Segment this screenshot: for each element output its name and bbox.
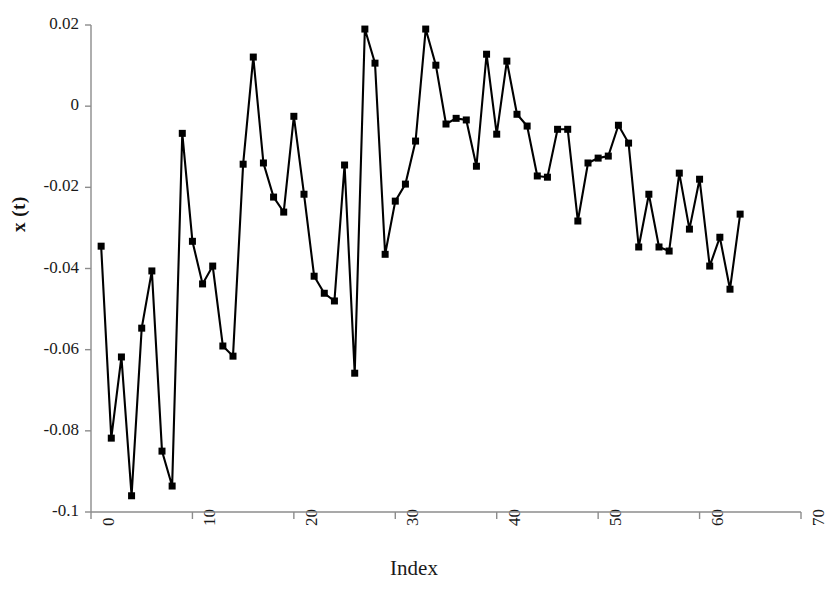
data-point-marker — [676, 170, 683, 177]
data-point-marker — [554, 126, 561, 133]
data-point-marker — [230, 353, 237, 360]
data-point-marker — [524, 123, 531, 130]
data-point-marker — [331, 297, 338, 304]
data-point-marker — [544, 174, 551, 181]
data-point-marker — [716, 234, 723, 241]
data-point-marker — [564, 126, 571, 133]
data-point-marker — [372, 60, 379, 67]
data-point-marker — [321, 290, 328, 297]
data-point-marker — [240, 161, 247, 168]
data-point-marker — [656, 243, 663, 250]
data-point-marker — [169, 483, 176, 490]
data-point-marker — [645, 191, 652, 198]
data-point-marker — [473, 163, 480, 170]
data-series — [98, 26, 744, 500]
data-point-marker — [483, 51, 490, 58]
data-point-marker — [108, 435, 115, 442]
data-point-marker — [290, 113, 297, 120]
data-point-marker — [351, 370, 358, 377]
axes — [85, 25, 801, 519]
data-point-marker — [574, 218, 581, 225]
data-point-marker — [432, 62, 439, 69]
data-point-marker — [179, 130, 186, 137]
data-point-marker — [280, 209, 287, 216]
data-point-marker — [666, 248, 673, 255]
data-point-marker — [595, 155, 602, 162]
data-point-marker — [412, 138, 419, 145]
data-point-marker — [199, 280, 206, 287]
data-point-marker — [514, 111, 521, 118]
data-point-marker — [585, 159, 592, 166]
data-point-marker — [270, 194, 277, 201]
data-point-marker — [361, 26, 368, 33]
data-point-marker — [138, 325, 145, 332]
data-point-marker — [159, 448, 166, 455]
data-point-marker — [341, 162, 348, 169]
data-point-marker — [493, 131, 500, 138]
data-point-marker — [605, 153, 612, 160]
data-point-marker — [727, 286, 734, 293]
data-point-marker — [189, 238, 196, 245]
data-point-marker — [443, 121, 450, 128]
data-point-marker — [402, 181, 409, 188]
data-point-marker — [118, 353, 125, 360]
chart-figure: x (t) Index 0.020-0.02-0.04-0.06-0.08-0.… — [0, 0, 828, 595]
data-point-marker — [686, 226, 693, 233]
series-line — [101, 29, 740, 496]
data-point-marker — [503, 58, 510, 65]
data-point-marker — [463, 116, 470, 123]
data-point-marker — [128, 492, 135, 499]
data-point-marker — [625, 140, 632, 147]
data-point-marker — [250, 54, 257, 61]
data-point-marker — [635, 243, 642, 250]
data-point-marker — [615, 122, 622, 129]
plot-area — [0, 0, 828, 595]
data-point-marker — [209, 263, 216, 270]
data-point-marker — [260, 159, 267, 166]
data-point-marker — [311, 273, 318, 280]
data-point-marker — [706, 263, 713, 270]
data-point-marker — [382, 251, 389, 258]
data-point-marker — [301, 191, 308, 198]
data-point-marker — [392, 198, 399, 205]
data-point-marker — [534, 172, 541, 179]
data-point-marker — [148, 267, 155, 274]
data-point-marker — [737, 211, 744, 218]
data-point-marker — [422, 26, 429, 33]
data-point-marker — [219, 343, 226, 350]
data-point-marker — [696, 176, 703, 183]
data-point-marker — [98, 243, 105, 250]
data-point-marker — [453, 115, 460, 122]
